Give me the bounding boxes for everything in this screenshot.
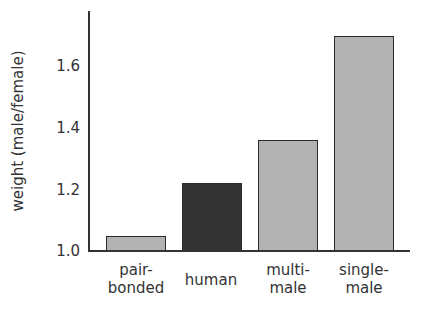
y-tick-label: 1.0 <box>42 243 80 259</box>
y-tick-label: 1.4 <box>42 120 80 136</box>
x-label-line: single- <box>319 261 409 279</box>
y-axis-label: weight (male/female) <box>9 50 27 211</box>
bar-human <box>182 183 242 251</box>
y-tick-label: 1.6 <box>42 58 80 74</box>
x-label-single-male: single- male <box>319 261 409 297</box>
y-tick-label: 1.2 <box>42 182 80 198</box>
bar-single-male <box>334 36 394 251</box>
bar-pair-bonded <box>106 236 166 251</box>
x-label-line: male <box>319 279 409 297</box>
x-axis <box>88 250 410 252</box>
y-axis <box>88 11 90 252</box>
bar-multi-male <box>258 140 318 251</box>
